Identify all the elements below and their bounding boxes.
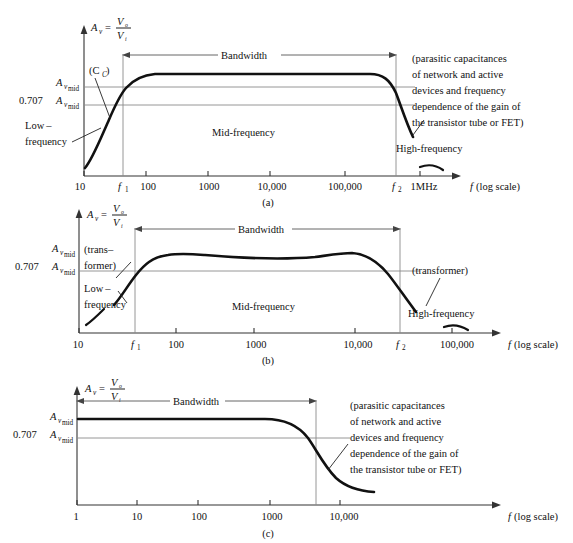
panel-a: A v = V o V i A v mid 0.707 A v mid	[19, 16, 524, 209]
panel-a-y-arrow	[81, 25, 88, 34]
panel-c-x-tick-labels: 1 10 100 1000 10,000	[73, 511, 358, 522]
panel-b: A v = V o V i A v mid 0.707 A v mid	[15, 203, 559, 367]
panel-b-vi-sub: i	[121, 223, 123, 229]
panel-c-x-axis-title: f (log scale)	[508, 511, 559, 523]
panel-c-avmid-label: A v mid	[49, 411, 74, 427]
panel-b-xlabel-f: f	[508, 339, 513, 350]
panel-a-xtick-0: 10	[75, 181, 86, 192]
panel-c-bandwidth-label: Bandwidth	[173, 396, 220, 407]
panel-a-707-prefix: 0.707	[19, 95, 43, 106]
panel-b-av-A: A	[86, 209, 94, 220]
panel-b-xtick-3: 10,000	[344, 339, 373, 350]
panel-b-707-A: A	[51, 261, 59, 272]
panel-b-x-arrow	[492, 330, 501, 337]
panel-a-xtick-5: 1MHz	[411, 181, 438, 192]
panel-c-707-prefix: 0.707	[13, 429, 37, 440]
panel-c-xtick-0: 1	[73, 511, 78, 522]
panel-c-vi: V	[111, 391, 119, 402]
panel-b-eq: =	[101, 209, 107, 220]
panel-c-annot-line-0: (parasitic capacitances	[350, 400, 445, 412]
panel-c-xtick-2: 100	[191, 511, 207, 522]
panel-a-avmid-mid: mid	[68, 85, 80, 93]
panel-c-y-axis-title: A v = V o V i	[84, 377, 125, 403]
panel-c-av-sub: v	[93, 389, 97, 397]
panel-a-707-A: A	[55, 95, 63, 106]
panel-b-bandwidth-arrow: Bandwidth	[134, 224, 401, 235]
panel-a-cc-leader	[95, 78, 110, 118]
panel-b-xtick-1: 100	[168, 339, 184, 350]
panel-a-low-freq-annotation: Low – frequency	[25, 120, 101, 147]
panel-a-response-curve	[85, 74, 413, 168]
panel-b-bandwidth-label: Bandwidth	[238, 224, 285, 235]
panel-b-avmid-mid: mid	[64, 251, 76, 259]
panel-a-low-line1: Low –	[25, 120, 52, 131]
panel-c-xlabel-rest: (log scale)	[514, 511, 559, 523]
panel-a-annot-line-1: of network and active	[412, 69, 504, 80]
panel-b-high-label: High-frequency	[408, 308, 475, 319]
panel-a-xtick-1: 100	[140, 181, 156, 192]
panel-b-transformer-right-leader	[426, 278, 440, 306]
panel-b-mid-label: Mid-frequency	[232, 301, 296, 312]
panel-a-eq: =	[105, 22, 111, 33]
panel-b-transformer-line2: former)	[84, 260, 117, 272]
panel-b-transformer-right-annotation: (transformer)	[412, 265, 468, 306]
panel-b-low-freq-tail	[86, 309, 104, 325]
panel-a-avmid-A: A	[55, 77, 63, 88]
panel-b-f2-sub: 2	[402, 344, 406, 352]
panel-a-cc-open: (C	[89, 65, 100, 77]
panel-c-vi-sub: i	[119, 397, 121, 403]
panel-a-vo: V	[117, 16, 125, 27]
panel-a-x-tick-labels: 10 100 1000 10,000 100,000 1MHz	[75, 181, 438, 192]
panel-a-avmid-label: A v mid	[55, 77, 80, 93]
panel-b-707-prefix: 0.707	[15, 261, 39, 272]
panel-c-annot-leader	[328, 444, 348, 470]
panel-a-parasitic-annotation: (parasitic capacitances of network and a…	[412, 53, 524, 129]
panel-a-high-label: High-frequency	[396, 143, 463, 154]
panel-a-cc-close: )	[106, 65, 110, 77]
panel-c-vo-sub: o	[119, 383, 122, 389]
panel-c-caption: (c)	[262, 528, 274, 540]
panel-a-annot-line-3: dependence of the gain of	[412, 101, 521, 112]
panel-c-annot-line-1: of network and active	[350, 416, 442, 427]
panel-c-707-A: A	[49, 429, 57, 440]
panel-c-x-arrow	[492, 502, 501, 509]
panel-b-f1: f	[131, 339, 136, 350]
panel-a-xlabel-rest: (log scale)	[476, 181, 521, 193]
panel-a-cc-annotation: (C C )	[89, 65, 110, 118]
panel-b-707-mid: mid	[64, 269, 76, 277]
panel-a-x-axis-title: f (log scale)	[470, 181, 521, 193]
panel-c-xtick-1: 10	[132, 511, 143, 522]
panel-b-high-freq-tail	[444, 325, 468, 330]
panel-b-low-line2: frequency	[84, 299, 127, 310]
panel-c-response-curve	[78, 419, 374, 492]
panel-c-y-arrow	[74, 386, 81, 395]
panel-b-caption: (b)	[262, 355, 275, 367]
panel-b-xtick-4: 100,000	[440, 339, 474, 350]
panel-a-low-leader	[72, 128, 101, 142]
panel-a-vo-sub: o	[125, 22, 128, 28]
panel-c-707-label: 0.707 A v mid	[13, 429, 74, 445]
panel-b-transformer-leader	[116, 262, 131, 278]
panel-a-vi-sub: i	[125, 36, 127, 42]
panel-b-low-line1: Low –	[84, 283, 111, 294]
panel-c-eq: =	[99, 383, 105, 394]
panel-b-x-axis-title: f (log scale)	[508, 339, 559, 351]
panel-a-annot-line-0: (parasitic capacitances	[412, 53, 507, 65]
panel-a-high-freq-tail	[420, 165, 443, 170]
panel-c-av-A: A	[84, 383, 92, 394]
panel-c-vo: V	[111, 377, 119, 388]
panel-b-transformer-right: (transformer)	[412, 265, 468, 277]
panel-c-annot-line-2: devices and frequency	[350, 432, 445, 443]
panel-b-y-axis-title: A v = V o V i	[86, 203, 127, 229]
panel-a-f2-sub: 2	[398, 186, 402, 194]
panel-c-707-mid: mid	[62, 437, 74, 445]
panel-a-xtick-3: 10,000	[258, 181, 287, 192]
panel-b-vo-sub: o	[121, 209, 124, 215]
panel-a-mid-label: Mid-frequency	[212, 127, 276, 138]
panel-b-f2: f	[396, 339, 401, 350]
panel-a-f2: f	[392, 181, 397, 192]
panel-a-f1: f	[118, 181, 123, 192]
panel-a-707-label: 0.707 A v mid	[19, 95, 80, 111]
panel-a-av-sub: v	[99, 28, 103, 36]
panel-c-xtick-3: 1000	[262, 511, 283, 522]
